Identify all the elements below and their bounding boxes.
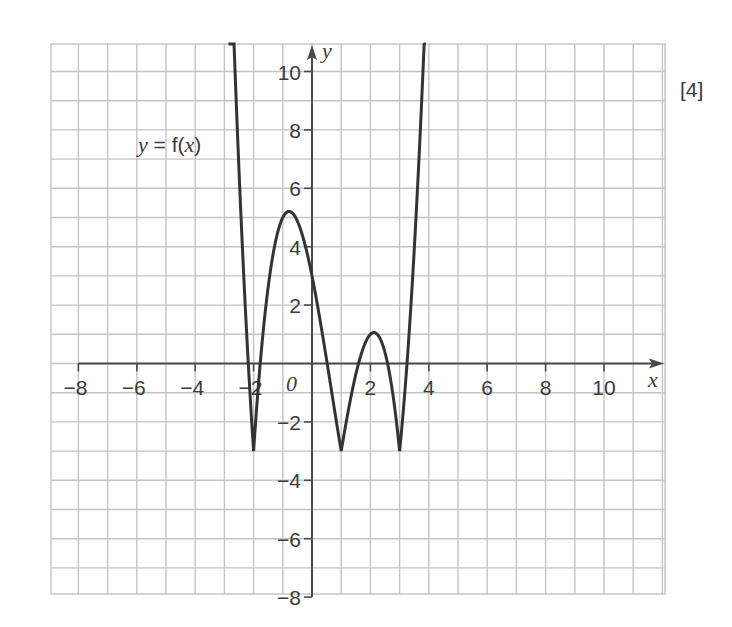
y-tick-label: 2 (289, 294, 301, 317)
grid (51, 44, 665, 594)
origin-label: 0 (286, 371, 297, 396)
y-tick-label: −2 (277, 411, 301, 434)
marks-label: [4] (680, 78, 703, 102)
function-curve (228, 44, 425, 451)
x-tick-label: −8 (63, 376, 87, 399)
y-tick-label: −4 (277, 469, 301, 492)
y-tick-label: 6 (289, 177, 301, 200)
x-tick-label: 6 (481, 376, 493, 399)
y-tick-label: 8 (289, 119, 301, 142)
x-tick-label: −4 (180, 376, 204, 399)
function-graph: −8−6−4−2246810−8−6−4−2246810 y = f(x) 0 … (0, 0, 732, 627)
y-tick-label: 10 (278, 61, 301, 84)
y-axis-label: y (320, 38, 332, 63)
x-tick-label: −6 (122, 376, 146, 399)
y-tick-label: 4 (289, 236, 301, 259)
x-tick-label: 4 (423, 376, 435, 399)
x-tick-label: 2 (365, 376, 377, 399)
y-tick-label: −8 (277, 586, 301, 609)
y-tick-label: −6 (277, 528, 301, 551)
x-axis-label: x (647, 367, 658, 392)
x-tick-label: 8 (540, 376, 552, 399)
x-tick-label: 10 (592, 376, 615, 399)
curve-label: y = f(x) (136, 132, 201, 157)
